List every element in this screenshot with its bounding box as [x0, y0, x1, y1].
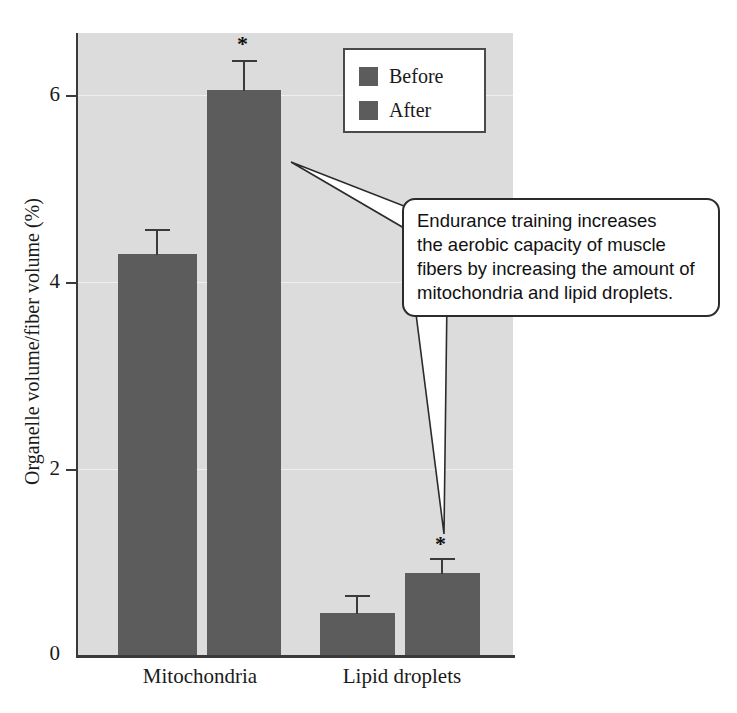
errorbar-cap-lipid-droplets-before	[345, 595, 370, 597]
y-axis-title: Organelle volume/fiber volume (%)	[21, 62, 44, 622]
errorbar-lipid-droplets-after	[441, 558, 443, 574]
errorbar-mitochondria-after	[243, 60, 245, 91]
legend-item-before: Before	[359, 59, 484, 93]
errorbar-lipid-droplets-before	[356, 595, 358, 614]
callout-line-1: Endurance training increases	[417, 209, 706, 233]
x-category-label-lipid-droplets: Lipid droplets	[312, 664, 492, 689]
x-axis-line	[76, 655, 515, 658]
legend-label-before: Before	[389, 65, 443, 88]
callout-line-2: the aerobic capacity of muscle	[417, 233, 706, 257]
significance-star-mitochondria-after: *	[237, 33, 248, 55]
errorbar-cap-lipid-droplets-after	[430, 558, 455, 560]
y-tick-6	[66, 95, 77, 97]
bar-chart-figure: 6 4 2 0 Organelle volume/fiber volume (%…	[0, 0, 737, 713]
callout-box: Endurance training increases the aerobic…	[402, 198, 720, 317]
bar-lipid-droplets-after	[405, 573, 480, 655]
callout-line-3: fibers by increasing the amount of	[417, 257, 706, 281]
legend-item-after: After	[359, 93, 484, 127]
y-tick-label-0: 0	[20, 641, 60, 666]
y-tick-4	[66, 282, 77, 284]
x-category-label-mitochondria: Mitochondria	[110, 664, 290, 689]
bar-lipid-droplets-before	[320, 613, 395, 655]
errorbar-mitochondria-before	[156, 229, 158, 255]
y-tick-2	[66, 469, 77, 471]
bar-mitochondria-before	[118, 254, 197, 655]
errorbar-cap-mitochondria-after	[232, 60, 257, 62]
y-axis-line	[76, 33, 78, 657]
callout-line-4: mitochondria and lipid droplets.	[417, 281, 706, 305]
legend-swatch-after-icon	[359, 101, 378, 120]
legend-swatch-before-icon	[359, 67, 378, 86]
significance-star-lipid-droplets-after: *	[435, 533, 446, 555]
legend-label-after: After	[389, 99, 431, 122]
bar-mitochondria-after	[207, 90, 281, 655]
errorbar-cap-mitochondria-before	[145, 229, 170, 231]
legend: Before After	[343, 48, 486, 133]
